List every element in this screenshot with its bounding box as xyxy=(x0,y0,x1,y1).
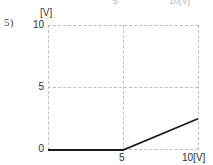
series-line-output-voltage xyxy=(48,25,198,150)
clipped-x-tick-5: 5 xyxy=(113,0,118,6)
clipped-previous-figure-strip: 5 10[V] xyxy=(0,0,213,7)
x-tick-label-10-with-unit: 10[V] xyxy=(182,152,205,163)
y-axis-unit-label: [V] xyxy=(40,7,52,18)
figure-panel: 5 10[V] 5) [V] 10 5 0 5 10[V] xyxy=(0,0,213,165)
gridline-x-10 xyxy=(198,25,199,150)
clipped-x-tick-10: 10[V] xyxy=(169,0,190,6)
plot-area xyxy=(48,25,198,150)
y-tick-label-10: 10 xyxy=(20,19,44,30)
y-tick-label-5: 5 xyxy=(20,81,44,92)
x-tick-label-5: 5 xyxy=(119,152,125,163)
problem-number-label: 5) xyxy=(4,16,14,28)
y-tick-label-0: 0 xyxy=(20,143,44,154)
